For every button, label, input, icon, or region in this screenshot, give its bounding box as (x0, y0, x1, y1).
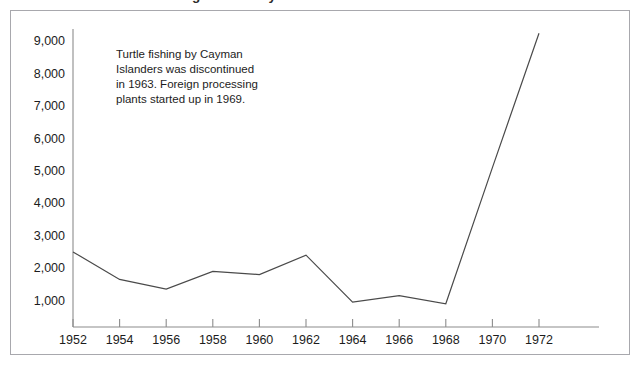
y-tick-label-1000: 1,000 (34, 294, 65, 308)
x-tick-label-1962: 1962 (292, 333, 320, 347)
y-tick-label-9000: 9,000 (34, 34, 65, 48)
page-title: Turtle landings in the Cayman Islands (112, 0, 354, 3)
y-tick-label-2000: 2,000 (34, 261, 65, 275)
x-tick-label-1958: 1958 (199, 333, 227, 347)
x-tick-label-1972: 1972 (525, 333, 553, 347)
line-chart-svg: 1,000 2,000 3,000 4,000 5,000 6,000 7,00… (11, 11, 631, 356)
x-tick-label-1968: 1968 (432, 333, 460, 347)
chart-title-strip: Turtle landings in the Cayman Islands (0, 0, 642, 9)
y-tick-label-8000: 8,000 (34, 67, 65, 81)
annotation-line-1: Turtle fishing by Cayman (116, 48, 243, 60)
y-tick-label-5000: 5,000 (34, 164, 65, 178)
figure-frame: 1,000 2,000 3,000 4,000 5,000 6,000 7,00… (10, 10, 630, 355)
x-tick-label-1952: 1952 (59, 333, 87, 347)
x-tick-label-1960: 1960 (245, 333, 273, 347)
annotation-line-4: plants started up in 1969. (116, 93, 245, 105)
x-tick-label-1966: 1966 (385, 333, 413, 347)
y-tick-label-4000: 4,000 (34, 196, 65, 210)
annotation-line-3: in 1963. Foreign processing (116, 78, 258, 90)
y-tick-label-3000: 3,000 (34, 229, 65, 243)
y-tick-label-7000: 7,000 (34, 99, 65, 113)
x-tick-label-1970: 1970 (478, 333, 506, 347)
x-tick-label-1964: 1964 (339, 333, 367, 347)
annotation-line-2: Islanders was discontinued (116, 63, 254, 75)
plot-area: 1,000 2,000 3,000 4,000 5,000 6,000 7,00… (11, 11, 631, 356)
x-tick-label-1954: 1954 (106, 333, 134, 347)
y-tick-label-6000: 6,000 (34, 132, 65, 146)
x-tick-label-1956: 1956 (152, 333, 180, 347)
